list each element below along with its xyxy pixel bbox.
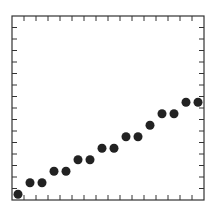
- data-point: [110, 144, 119, 153]
- data-point: [26, 178, 35, 187]
- data-point: [146, 121, 155, 130]
- data-points: [14, 98, 203, 199]
- data-point: [158, 109, 167, 118]
- data-point: [62, 167, 71, 176]
- data-point: [182, 98, 191, 107]
- data-point: [74, 155, 83, 164]
- plot-frame: [12, 16, 204, 200]
- data-point: [134, 132, 143, 141]
- data-point: [14, 190, 23, 199]
- data-point: [170, 109, 179, 118]
- data-point: [122, 132, 131, 141]
- data-point: [86, 155, 95, 164]
- axis-ticks: [12, 16, 204, 200]
- data-point: [98, 144, 107, 153]
- data-point: [194, 98, 203, 107]
- data-point: [38, 178, 47, 187]
- scatter-chart: [0, 0, 224, 212]
- data-point: [50, 167, 59, 176]
